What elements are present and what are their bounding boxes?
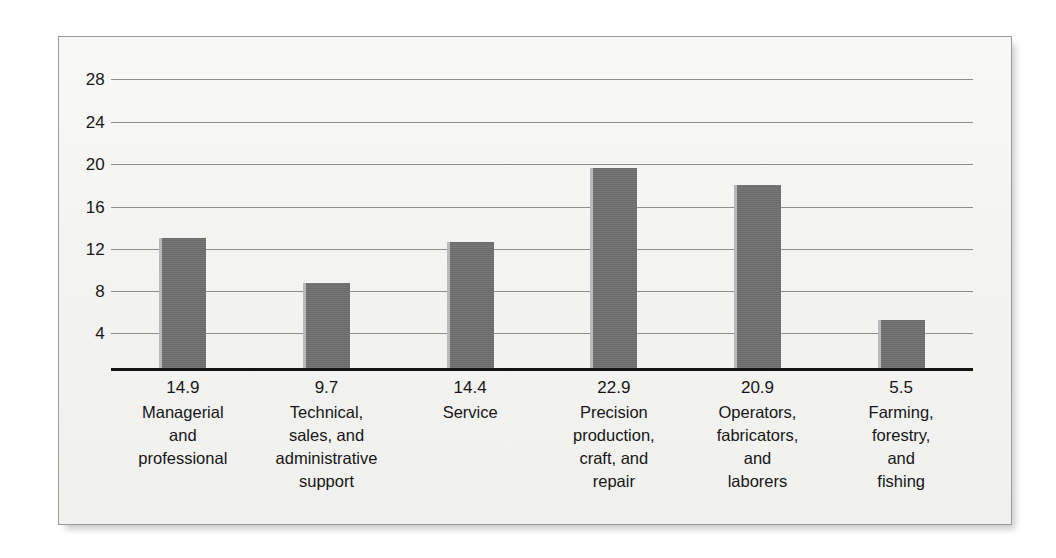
bar-value-label: 14.9 xyxy=(111,377,255,398)
x-axis-labels: 14.9 Managerial and professional 9.7 Tec… xyxy=(59,377,1013,526)
x-label-group: 22.9 Precision production, craft, and re… xyxy=(542,377,686,493)
x-label-group: 5.5 Farming, forestry, and fishing xyxy=(829,377,973,493)
bar-category-label: Managerial and professional xyxy=(111,401,255,470)
bar-value-label: 22.9 xyxy=(542,377,686,398)
bar-technical-sales-and-administrative-support[interactable] xyxy=(303,283,350,368)
bar-category-label: Farming, forestry, and fishing xyxy=(829,401,973,493)
x-label-group: 14.4 Service xyxy=(398,377,542,424)
bar-managerial-and-professional[interactable] xyxy=(159,238,206,368)
bar-category-label: Service xyxy=(398,401,542,424)
x-label-group: 9.7 Technical, sales, and administrative… xyxy=(255,377,399,493)
bar-category-label: Operators, fabricators, and laborers xyxy=(686,401,830,493)
bar-operators-fabricators-and-laborers[interactable] xyxy=(734,185,781,368)
x-label-group: 20.9 Operators, fabricators, and laborer… xyxy=(686,377,830,493)
bar-value-label: 9.7 xyxy=(255,377,399,398)
bar-value-label: 20.9 xyxy=(686,377,830,398)
bar-category-label: Technical, sales, and administrative sup… xyxy=(255,401,399,493)
page-root: 28 24 20 16 12 8 4 xyxy=(0,0,1056,558)
bar-farming-forestry-and-fishing[interactable] xyxy=(878,320,925,368)
x-axis-baseline xyxy=(111,368,973,371)
bar-category-label: Precision production, craft, and repair xyxy=(542,401,686,493)
bar-service[interactable] xyxy=(447,242,494,368)
x-label-group: 14.9 Managerial and professional xyxy=(111,377,255,470)
bar-value-label: 14.4 xyxy=(398,377,542,398)
bar-chart-plot: 28 24 20 16 12 8 4 xyxy=(59,37,1013,526)
bar-precision-production-craft-and-repair[interactable] xyxy=(590,168,637,368)
bar-value-label: 5.5 xyxy=(829,377,973,398)
chart-card: 28 24 20 16 12 8 4 xyxy=(58,36,1012,525)
